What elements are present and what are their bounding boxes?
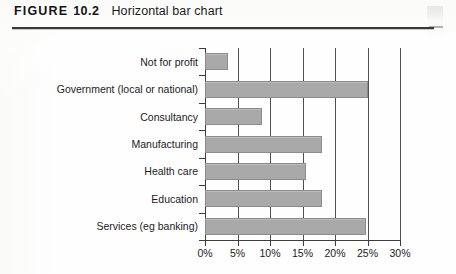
gridline [368,48,369,240]
x-tick-label: 5% [230,248,245,259]
gridline [335,48,336,240]
category-label: Government (local or national) [2,84,198,95]
figure-title: Horizontal bar chart [111,4,222,18]
figure-label: FIGURE [14,4,68,18]
x-tick [335,241,336,246]
bar [205,81,368,98]
y-tick [199,213,205,214]
plot-area [205,48,400,240]
x-tick-label: 20% [324,248,345,259]
gridline [400,48,401,240]
category-axis-labels: Not for profitGovernment (local or natio… [0,33,198,274]
x-tick-label: 30% [389,248,410,259]
category-label: Services (eg banking) [2,221,198,232]
x-tick [303,241,304,246]
category-label: Manufacturing [2,139,198,150]
y-tick [199,75,205,76]
x-tick [400,241,401,246]
category-label: Health care [2,166,198,177]
x-tick-label: 15% [292,248,313,259]
category-label: Consultancy [2,112,198,123]
bar [205,136,322,153]
x-tick [205,241,206,246]
bar-chart: Not for profitGovernment (local or natio… [0,33,456,274]
figure-page: FIGURE 10.2 Horizontal bar chart Not for… [0,0,456,274]
y-tick [199,158,205,159]
x-tick-label: 10% [259,248,280,259]
bar [205,108,262,125]
caption-divider-shadow [12,29,434,30]
y-tick [199,48,205,49]
bar [205,163,306,180]
x-tick-label: 25% [357,248,378,259]
bar [205,190,322,207]
y-tick [199,103,205,104]
bar [205,218,366,235]
category-label: Not for profit [2,57,198,68]
x-tick [238,241,239,246]
figure-number: 10.2 [73,4,99,18]
y-tick [199,130,205,131]
bar [205,53,228,70]
figure-caption: FIGURE 10.2 Horizontal bar chart [14,4,223,22]
x-tick [368,241,369,246]
x-tick-label: 0% [197,248,212,259]
category-label: Education [2,194,198,205]
y-tick [199,185,205,186]
x-tick [270,241,271,246]
